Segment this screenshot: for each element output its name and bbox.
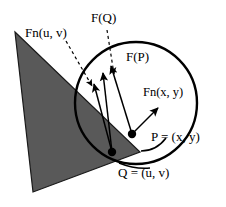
vector-field-diagram: Fn(u, v) F(Q) F(P) Fn(x, y) P = (x, y) Q… — [0, 0, 226, 207]
label-point-q: Q = (u, v) — [118, 165, 169, 180]
point-p-marker — [128, 130, 136, 138]
label-fn-xy: Fn(x, y) — [143, 85, 183, 99]
figure-canvas: Fn(u, v) F(Q) F(P) Fn(x, y) P = (x, y) Q… — [0, 0, 226, 207]
label-point-p: P = (x, y) — [151, 129, 200, 144]
label-f-q: F(Q) — [91, 10, 116, 25]
label-fn-uv: Fn(u, v) — [25, 25, 67, 40]
point-q-marker — [108, 148, 116, 156]
label-f-p: F(P) — [126, 49, 149, 64]
vector-f-p — [111, 66, 132, 134]
leader-f-q — [107, 30, 114, 74]
